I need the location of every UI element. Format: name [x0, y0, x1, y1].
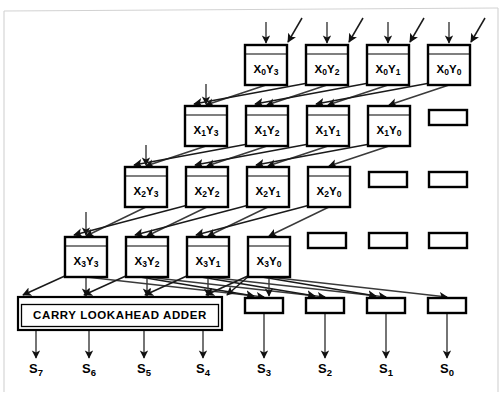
output-label-S2: S2 — [318, 361, 332, 378]
vertical-wire-r0-c0 — [389, 85, 449, 105]
vertical-wire-r1-c3 — [146, 146, 206, 166]
output-label-S6: S6 — [82, 361, 96, 378]
vertical-wire-r0-c3 — [206, 85, 266, 105]
top-diagonal-input-arrow-0 — [288, 18, 302, 42]
vertical-wire-r1-c0 — [329, 146, 389, 166]
output-label-S5: S5 — [137, 361, 152, 378]
vertical-wire-r2-c2 — [147, 207, 207, 236]
latch-box-r3-c2[interactable] — [308, 233, 346, 248]
latch-box-r3-c0[interactable] — [429, 233, 467, 248]
latch-box-r4-c1[interactable] — [367, 298, 405, 313]
output-label-S1: S1 — [379, 361, 394, 378]
latch-box-r2-c0[interactable] — [429, 172, 467, 187]
top-diagonal-input-arrow-1 — [349, 18, 363, 42]
output-label-S0: S0 — [440, 361, 454, 378]
adder-label: CARRY LOOKAHEAD ADDER — [33, 309, 207, 321]
latch-box-r4-c2[interactable] — [306, 298, 344, 313]
vertical-wire-r0-c1 — [328, 85, 388, 105]
diagram-canvas: X0Y3X0Y2X0Y1X0Y0X1Y3X1Y2X1Y1X1Y0X2Y3X2Y2… — [0, 0, 502, 400]
vertical-wire-r1-c1 — [268, 146, 328, 166]
vertical-wire-r1-c2 — [207, 146, 267, 166]
output-label-S4: S4 — [196, 361, 211, 378]
output-label-S3: S3 — [257, 361, 271, 378]
latch-box-r2-c1[interactable] — [369, 172, 407, 187]
output-label-S7: S7 — [29, 361, 43, 378]
top-diagonal-input-arrow-2 — [410, 18, 424, 42]
latch-box-r3-c1[interactable] — [369, 233, 407, 248]
vertical-wire-r2-c3 — [86, 207, 146, 236]
vertical-wire-r2-c0 — [269, 207, 329, 236]
top-diagonal-input-arrow-3 — [471, 18, 485, 42]
latch-box-r4-c0[interactable] — [428, 298, 466, 313]
adder-diagonal-X3Y3 — [23, 275, 67, 295]
latch-box-r1-c0[interactable] — [429, 110, 467, 125]
vertical-wire-r0-c2 — [267, 85, 327, 105]
diagonal-wire-X2Y0 — [196, 205, 310, 235]
latch-box-r4-c3[interactable] — [245, 298, 283, 313]
diagonal-wire-X2Y2 — [74, 205, 188, 235]
diagonal-wire-X2Y1 — [135, 205, 249, 235]
vertical-wire-r2-c1 — [208, 207, 268, 236]
array-multiplier-diagram: X0Y3X0Y2X0Y1X0Y0X1Y3X1Y2X1Y1X1Y0X2Y3X2Y2… — [0, 0, 502, 400]
